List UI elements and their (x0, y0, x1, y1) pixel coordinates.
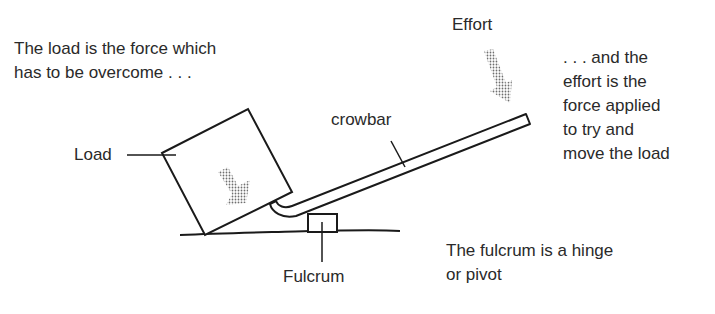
crowbar (270, 114, 530, 217)
load-description-line1: The load is the force which (14, 38, 216, 60)
effort-description-line4: to try and (563, 119, 634, 141)
load-description-line2: has to be overcome . . . (14, 62, 192, 84)
effort-description-line5: move the load (563, 143, 670, 165)
fulcrum-label: Fulcrum (283, 266, 344, 288)
fulcrum-description-line1: The fulcrum is a hinge (446, 240, 613, 262)
effort-description-line1: . . . and the (563, 47, 648, 69)
fulcrum-description-line2: or pivot (446, 264, 502, 286)
load-label: Load (74, 144, 112, 166)
crowbar-label: crowbar (331, 109, 391, 131)
effort-title: Effort (452, 14, 492, 36)
effort-description-line3: force applied (563, 95, 660, 117)
crowbar-leader-line (391, 141, 405, 167)
effort-arrow-icon (484, 49, 512, 103)
effort-description-line2: effort is the (563, 71, 647, 93)
